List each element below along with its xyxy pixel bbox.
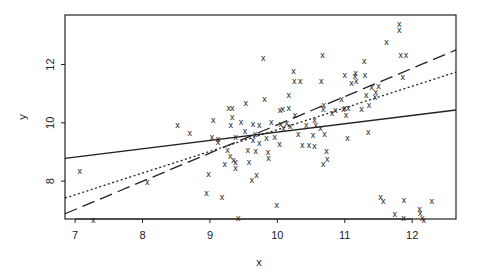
data-points: xxxxxxxxxxxxxxxxxxxxxxxxxxxxxxxxxxxxxxxx… <box>78 19 435 225</box>
data-point-marker: x <box>264 133 269 143</box>
data-point-marker: x <box>287 103 292 113</box>
data-point-marker: x <box>78 166 83 176</box>
data-point-marker: x <box>320 50 325 60</box>
data-point-marker: x <box>145 177 150 187</box>
data-point-marker: x <box>366 127 371 137</box>
data-point-marker: x <box>280 104 285 114</box>
x-tick-label: 11 <box>339 229 350 241</box>
fit-dotted-line <box>65 72 456 198</box>
regression-lines <box>65 50 456 214</box>
data-point-marker: x <box>381 196 386 206</box>
data-point-marker: x <box>400 72 405 82</box>
data-point-marker: x <box>220 192 225 202</box>
data-point-marker: x <box>325 154 330 164</box>
y-tick-label: 10 <box>44 117 56 129</box>
data-point-marker: x <box>292 76 297 86</box>
data-point-marker: x <box>359 104 364 114</box>
data-point-marker: x <box>287 90 292 100</box>
data-point-marker: x <box>322 100 327 110</box>
x-axis-label: x <box>256 256 262 268</box>
data-point-marker: x <box>363 70 368 80</box>
data-point-marker: x <box>91 215 96 225</box>
y-axis: 81012 <box>44 58 65 184</box>
data-point-marker: x <box>397 25 402 35</box>
data-point-marker: x <box>429 196 434 206</box>
data-point-marker: x <box>175 120 180 130</box>
data-point-marker: x <box>261 53 266 63</box>
data-point-marker: x <box>254 170 259 180</box>
data-point-marker: x <box>293 110 298 120</box>
y-axis-label: y <box>16 114 28 120</box>
data-point-marker: x <box>245 145 250 155</box>
data-point-marker: x <box>298 76 303 86</box>
data-point-marker: x <box>187 128 192 138</box>
data-point-marker: x <box>384 37 389 47</box>
data-point-marker: x <box>322 129 327 139</box>
data-point-marker: x <box>233 163 238 173</box>
data-point-marker: x <box>312 141 317 151</box>
data-point-marker: x <box>367 100 372 110</box>
data-point-marker: x <box>251 119 256 129</box>
data-point-marker: x <box>291 66 296 76</box>
data-point-marker: x <box>404 50 409 60</box>
data-point-marker: x <box>277 139 282 149</box>
data-point-marker: x <box>274 200 279 210</box>
scatter-chart: xxxxxxxxxxxxxxxxxxxxxxxxxxxxxxxxxxxxxxxx… <box>0 0 478 278</box>
x-axis: 789101112 <box>72 219 418 241</box>
data-point-marker: x <box>247 157 252 167</box>
data-point-marker: x <box>401 213 406 223</box>
x-tick-label: 9 <box>207 229 213 241</box>
data-point-marker: x <box>223 159 228 169</box>
data-point-marker: x <box>398 50 403 60</box>
data-point-marker: x <box>333 105 338 115</box>
data-point-marker: x <box>266 153 271 163</box>
data-point-marker: x <box>346 103 351 113</box>
data-point-marker: x <box>262 94 267 104</box>
data-point-marker: x <box>243 98 248 108</box>
data-point-marker: x <box>319 76 324 86</box>
data-point-marker: x <box>210 132 215 142</box>
data-point-marker: x <box>402 195 407 205</box>
fit-solid-line <box>65 110 456 158</box>
x-tick-label: 7 <box>72 229 78 241</box>
data-point-marker: x <box>233 132 238 142</box>
data-point-marker: x <box>421 215 426 225</box>
data-point-marker: x <box>307 140 312 150</box>
data-point-marker: x <box>243 126 248 136</box>
data-point-marker: x <box>321 159 326 169</box>
data-point-marker: x <box>288 121 293 131</box>
data-point-marker: x <box>392 209 397 219</box>
x-tick-label: 10 <box>271 229 283 241</box>
data-point-marker: x <box>257 120 262 130</box>
fit-dashed-line <box>65 50 456 214</box>
data-point-marker: x <box>236 213 241 223</box>
data-point-marker: x <box>204 188 209 198</box>
x-tick-label: 8 <box>139 229 145 241</box>
data-point-marker: x <box>304 120 309 130</box>
y-tick-label: 8 <box>44 178 56 184</box>
data-point-marker: x <box>343 70 348 80</box>
y-tick-label: 12 <box>44 58 56 70</box>
data-point-marker: x <box>300 140 305 150</box>
data-point-marker: x <box>211 115 216 125</box>
data-point-marker: x <box>296 129 301 139</box>
data-point-marker: x <box>311 130 316 140</box>
x-tick-label: 12 <box>406 229 418 241</box>
data-point-marker: x <box>354 76 359 86</box>
data-point-marker: x <box>345 133 350 143</box>
data-point-marker: x <box>376 81 381 91</box>
data-point-marker: x <box>206 169 211 179</box>
data-point-marker: x <box>362 56 367 66</box>
data-point-marker: x <box>216 137 221 147</box>
data-point-marker: x <box>269 117 274 127</box>
data-point-marker: x <box>229 120 234 130</box>
data-point-marker: x <box>257 138 262 148</box>
data-point-marker: x <box>364 90 369 100</box>
